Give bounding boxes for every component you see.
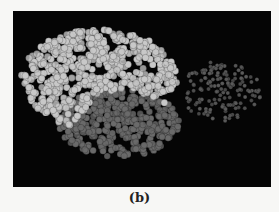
molecule-render bbox=[13, 11, 271, 187]
figure-caption: (b) bbox=[0, 190, 279, 205]
sparse-domain bbox=[185, 60, 262, 122]
molecule-image bbox=[13, 11, 271, 187]
